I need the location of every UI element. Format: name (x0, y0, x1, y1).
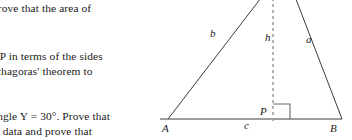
text-line: angle Y = 30°. Prove that (0, 109, 176, 124)
text-line: is data and prove that (0, 124, 176, 139)
label-point-P: P (260, 105, 267, 117)
page-fragment: prove that the area of BP in terms of th… (0, 0, 352, 140)
label-height-h: h (265, 31, 271, 43)
triangle-svg (160, 0, 352, 140)
text-line: ythagoras' theorem to (0, 64, 176, 79)
paragraph-2: BP in terms of the sides ythagoras' theo… (0, 49, 176, 79)
side-line-a (284, 0, 342, 119)
side-line-b (168, 0, 284, 119)
label-base-c: c (244, 119, 249, 131)
label-vertex-B: B (330, 122, 337, 134)
text-line: prove that the area of (0, 1, 176, 16)
text-line: BP in terms of the sides (0, 49, 176, 64)
label-vertex-A: A (162, 122, 169, 134)
right-angle-marker (273, 104, 290, 119)
label-side-a: a (306, 33, 312, 45)
text-column: prove that the area of BP in terms of th… (0, 0, 176, 140)
triangle-diagram: b h a c P A B (160, 0, 352, 140)
paragraph-3: angle Y = 30°. Prove that is data and pr… (0, 109, 176, 139)
label-side-b: b (210, 27, 216, 39)
paragraph-1: prove that the area of (0, 1, 176, 16)
